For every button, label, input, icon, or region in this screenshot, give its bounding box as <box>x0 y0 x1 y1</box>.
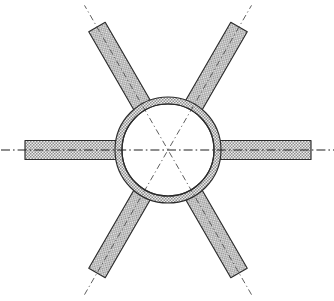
centerline-group <box>1 5 334 294</box>
technical-drawing-canvas: Radial Hub Spoke Assembly — Sectional Pl… <box>0 0 334 301</box>
drawing-surface <box>0 0 334 301</box>
